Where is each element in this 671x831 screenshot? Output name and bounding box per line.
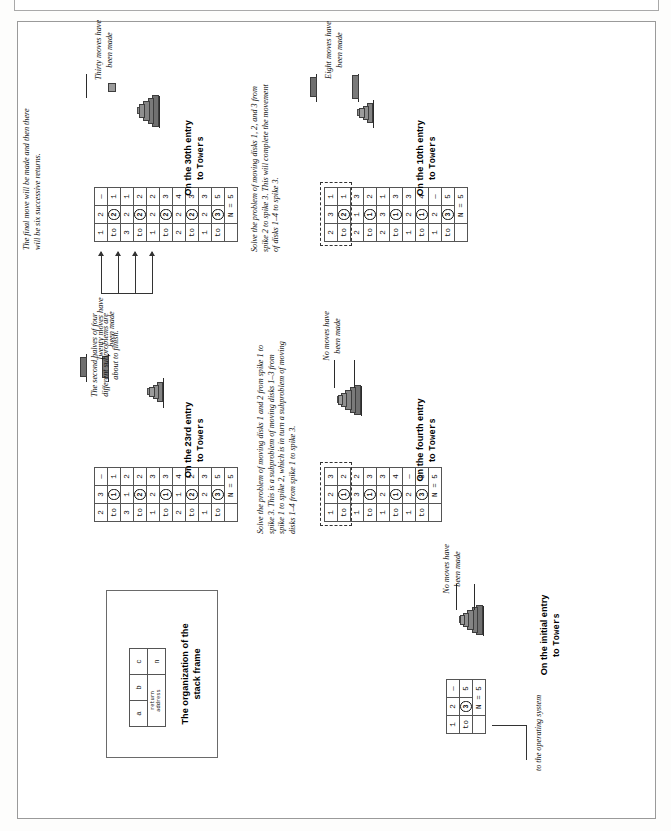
- org-row: a b c: [130, 649, 148, 727]
- tower-base: [86, 74, 87, 98]
- circled-number: 3: [442, 209, 454, 221]
- cell-n: 5: [460, 680, 473, 698]
- cell-b: 3: [377, 206, 390, 224]
- cell-a: 2: [377, 224, 390, 242]
- cell-a: 1: [447, 716, 460, 734]
- cell-return-address: to: [108, 504, 121, 522]
- circled-number: 1: [364, 209, 376, 221]
- towers-procedure-name: Towers: [552, 613, 562, 646]
- stack-frame-organization-box: a b c return address n The organization …: [106, 590, 218, 758]
- tower-spike-3: [474, 584, 475, 610]
- disk-5: [310, 77, 317, 97]
- cell-c: 1: [325, 188, 338, 206]
- arrow-head: [115, 251, 121, 256]
- circled-number: 1: [390, 489, 402, 501]
- cell-a: 3: [121, 504, 134, 522]
- cell-a: 1: [147, 504, 160, 522]
- frame-row: 123: [147, 468, 160, 522]
- n-equals-label: N = 5: [455, 188, 468, 224]
- frame-row: to22: [134, 188, 147, 242]
- disk-1: [460, 615, 466, 625]
- status-tenth: Eight moves have been made: [324, 10, 345, 90]
- frame-row: 231: [377, 188, 390, 242]
- panel-initial-entry: to the operating system 1 2 — to 3: [430, 520, 580, 760]
- disk-1: [359, 108, 365, 118]
- cell-n: 5: [212, 188, 225, 206]
- cell-a: 2: [173, 224, 186, 242]
- disk-5: [80, 357, 87, 377]
- n-equals-label: N = 5: [225, 468, 238, 504]
- cell-c: 2: [351, 468, 364, 486]
- cell-a: 1: [147, 224, 160, 242]
- circled-number: 2: [160, 209, 172, 221]
- frame-row: to35: [442, 188, 455, 242]
- cell-c: 3: [147, 468, 160, 486]
- cell-a: 2: [95, 504, 108, 522]
- cell-n: 2: [338, 468, 351, 486]
- cell-return-address: to: [134, 224, 147, 242]
- cell-n: 2: [134, 468, 147, 486]
- circled-number: 2: [134, 489, 146, 501]
- circled-number: 1: [108, 489, 120, 501]
- cell-n: 4: [390, 468, 403, 486]
- frame-row: to21: [338, 188, 351, 242]
- n-equals-label: N = 5: [225, 188, 238, 224]
- cell-b: 3: [95, 486, 108, 504]
- org-cell-c: c: [130, 649, 148, 675]
- cell-return-address: to: [160, 504, 173, 522]
- cell-disk-circled: 2: [160, 206, 173, 224]
- cell-n: 3: [364, 468, 377, 486]
- frame-row: to14: [390, 468, 403, 522]
- circled-number: 2: [108, 209, 120, 221]
- cell-return-address: to: [364, 504, 377, 522]
- arrow-shaft: [101, 252, 102, 294]
- org-cell-b: b: [130, 675, 148, 701]
- cell-b: 2: [147, 206, 160, 224]
- cell-a: 1: [403, 224, 416, 242]
- tower-spike-1: [86, 354, 87, 382]
- cell-a: 1: [377, 504, 390, 522]
- frame-row: to13: [364, 468, 377, 522]
- org-cell-a: a: [130, 701, 148, 727]
- status-fourth: No moves have been made: [322, 296, 343, 376]
- org-cell-n: n: [148, 649, 166, 675]
- cell-return-address: to: [338, 224, 351, 242]
- cell-disk-circled: 2: [134, 486, 147, 504]
- cell-n: 2: [134, 188, 147, 206]
- stack-frames-23rd: 23—to11312to22123to13214to22123to35N = 5: [94, 467, 238, 522]
- towers-procedure-name: Towers: [196, 418, 206, 451]
- cell-disk-circled: 3: [442, 206, 455, 224]
- annotation-30th: The final move will be made and then the…: [22, 100, 43, 250]
- cell-a: 2: [325, 224, 338, 242]
- caption-line2: to Towers: [551, 613, 561, 657]
- cell-return-address: to: [460, 716, 473, 734]
- arrow-shaft: [152, 252, 153, 294]
- frame-row-n-label: N = 5: [225, 468, 238, 522]
- stack-frames-initial: 1 2 — to 3 5 N =: [446, 679, 486, 734]
- frame-row: to35: [212, 188, 225, 242]
- cell-disk-circled: 3: [212, 486, 225, 504]
- circled-number: 1: [338, 489, 350, 501]
- towers-procedure-name: Towers: [428, 136, 438, 169]
- cell-disk-circled: 2: [134, 206, 147, 224]
- cell-blank: [473, 716, 486, 734]
- tower-spike-3: [354, 360, 355, 388]
- frame-row: 231: [325, 188, 338, 242]
- circled-number: 1: [390, 209, 402, 221]
- cell-a: 3: [121, 224, 134, 242]
- stack-frames-30th: 12—to21321to22122to23224to23123to35N = 5: [94, 187, 238, 242]
- cell-disk-circled: 1: [160, 486, 173, 504]
- arrow-shaft: [118, 252, 119, 294]
- cell-b: 3: [325, 206, 338, 224]
- cell-n: 5: [212, 468, 225, 486]
- cell-disk-circled: 1: [390, 206, 403, 224]
- org-title-line2: stack frame: [192, 648, 202, 699]
- cell-blank: [455, 224, 468, 242]
- cell-n: 1: [338, 188, 351, 206]
- cell-disk-circled: 3: [460, 698, 473, 716]
- frame-row: to22: [134, 468, 147, 522]
- cell-disk-circled: 3: [212, 206, 225, 224]
- tower-base: [474, 584, 475, 610]
- cell-return-address: to: [364, 224, 377, 242]
- frame-pointer-arrows: [96, 248, 168, 304]
